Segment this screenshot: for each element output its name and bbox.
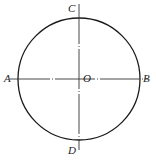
point-label-a: A: [4, 73, 11, 84]
point-label-d: D: [68, 145, 76, 156]
point-label-o: O: [83, 73, 91, 84]
point-label-b: B: [143, 73, 150, 84]
diagram-canvas: [0, 0, 156, 160]
point-label-c: C: [68, 3, 75, 14]
